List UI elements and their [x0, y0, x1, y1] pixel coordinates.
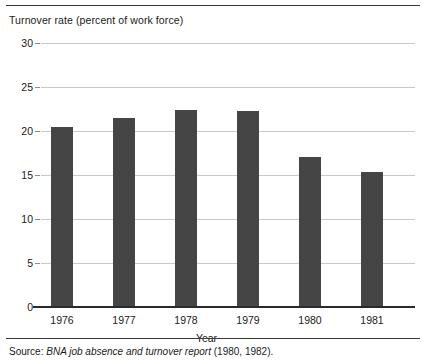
- bar: [113, 118, 135, 307]
- x-tick-label: 1981: [360, 314, 383, 326]
- gridline: [41, 219, 415, 220]
- y-tick-mark: [35, 87, 40, 88]
- y-tick-label: 25: [21, 81, 33, 93]
- x-axis-line: [33, 306, 415, 308]
- gridline: [41, 175, 415, 176]
- chart-title: Turnover rate (percent of work force): [9, 14, 183, 26]
- source-title: BNA job absence and turnover report: [46, 346, 211, 357]
- y-tick-label: 30: [21, 37, 33, 49]
- x-tick-label: 1979: [236, 314, 259, 326]
- source-note: Source: BNA job absence and turnover rep…: [9, 346, 273, 357]
- source-prefix: Source:: [9, 346, 43, 357]
- source-years: (1980, 1982).: [214, 346, 274, 357]
- gridline: [41, 43, 415, 44]
- y-tick-mark: [35, 131, 40, 132]
- bar: [361, 172, 383, 307]
- gridline: [41, 131, 415, 132]
- figure-bottom-rule: [6, 338, 420, 339]
- y-tick-label: 15: [21, 169, 33, 181]
- bar: [175, 110, 197, 307]
- y-tick-mark: [35, 175, 40, 176]
- y-tick-label: 10: [21, 213, 33, 225]
- figure-top-rule: [6, 5, 420, 6]
- x-tick-label: 1976: [50, 314, 73, 326]
- y-tick-label: 5: [27, 257, 33, 269]
- gridline: [41, 87, 415, 88]
- y-tick-label: 20: [21, 125, 33, 137]
- y-tick-mark: [35, 263, 40, 264]
- bar: [237, 111, 259, 307]
- x-tick-label: 1977: [112, 314, 135, 326]
- y-tick-mark: [35, 43, 40, 44]
- bar: [299, 157, 321, 307]
- gridline: [41, 263, 415, 264]
- plot-area: 051015202530 197619771978197919801981 Ye…: [41, 43, 415, 307]
- x-tick-label: 1980: [298, 314, 321, 326]
- x-tick-label: 1978: [174, 314, 197, 326]
- figure-container: Turnover rate (percent of work force) 05…: [0, 0, 426, 364]
- y-tick-mark: [35, 219, 40, 220]
- bar: [51, 127, 73, 307]
